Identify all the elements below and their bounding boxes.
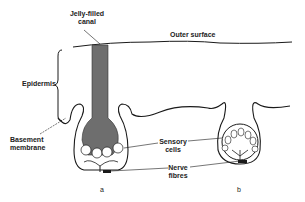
label-line: Basement [10, 136, 45, 144]
label-jelly-filled-canal: Jelly-filled canal [62, 10, 112, 26]
panel-label-b: b [237, 186, 241, 193]
label-epidermis: Epidermis [22, 80, 56, 88]
diagram-canvas [0, 0, 305, 202]
panel-label-a: a [100, 186, 104, 193]
label-line: fibres [164, 172, 192, 180]
label-outer-surface: Outer surface [170, 31, 216, 39]
label-line: cells [156, 146, 190, 154]
label-nerve-fibres: Nerve fibres [164, 164, 192, 180]
epidermis-brace [55, 50, 62, 121]
label-line: canal [62, 18, 112, 26]
label-line: Sensory [156, 138, 190, 146]
sensory-cells-b [222, 128, 258, 152]
label-line: Nerve [164, 164, 192, 172]
label-line: Jelly-filled [62, 10, 112, 18]
label-basement-membrane: Basement membrane [10, 136, 45, 152]
organ-a-canal [82, 45, 118, 155]
label-sensory-cells: Sensory cells [156, 138, 190, 154]
label-line: membrane [10, 144, 45, 152]
